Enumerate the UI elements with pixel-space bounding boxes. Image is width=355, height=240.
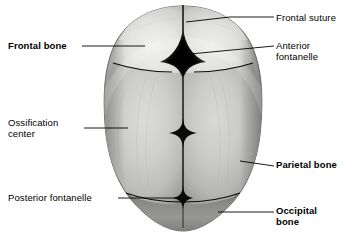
label-ossification-center: Ossification center [8,117,58,139]
label-parietal-bone: Parietal bone [276,159,337,170]
label-occipital-bone: Occipital bone [276,205,317,227]
label-anterior-fontanelle: Anterior fontanelle [276,40,318,62]
label-frontal-suture: Frontal suture [276,12,336,23]
label-posterior-fontanelle: Posterior fontanelle [8,192,92,203]
label-frontal-bone: Frontal bone [8,40,67,51]
fetal-skull-diagram: Frontal suture Anterior fontanelle Front… [0,0,355,240]
